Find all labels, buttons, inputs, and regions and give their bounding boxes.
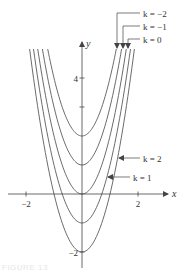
leader-line <box>128 39 140 48</box>
annotation-label: k = −1 <box>143 22 167 32</box>
annotation-label: k = 0 <box>143 35 162 45</box>
labels-group: xy−224−2k = −2k = −1k = 0k = 2k = 1 <box>21 9 177 258</box>
figure-caption: FIGURE 13 <box>2 263 48 272</box>
x-tick-label: −2 <box>21 199 31 209</box>
annotation-label: k = −2 <box>143 9 167 19</box>
annotation-label: k = 1 <box>133 173 152 183</box>
annotation-label: k = 2 <box>143 154 162 164</box>
parabola-family-chart: xy−224−2k = −2k = −1k = 0k = 2k = 1 <box>0 0 187 276</box>
leader-line <box>123 26 140 48</box>
x-tick-label: 2 <box>136 199 141 209</box>
x-axis-label: x <box>171 188 177 199</box>
y-tick-label: −2 <box>68 248 78 258</box>
y-tick-label: 4 <box>74 74 79 84</box>
y-axis-label: y <box>85 38 91 49</box>
leader-line <box>117 13 140 48</box>
